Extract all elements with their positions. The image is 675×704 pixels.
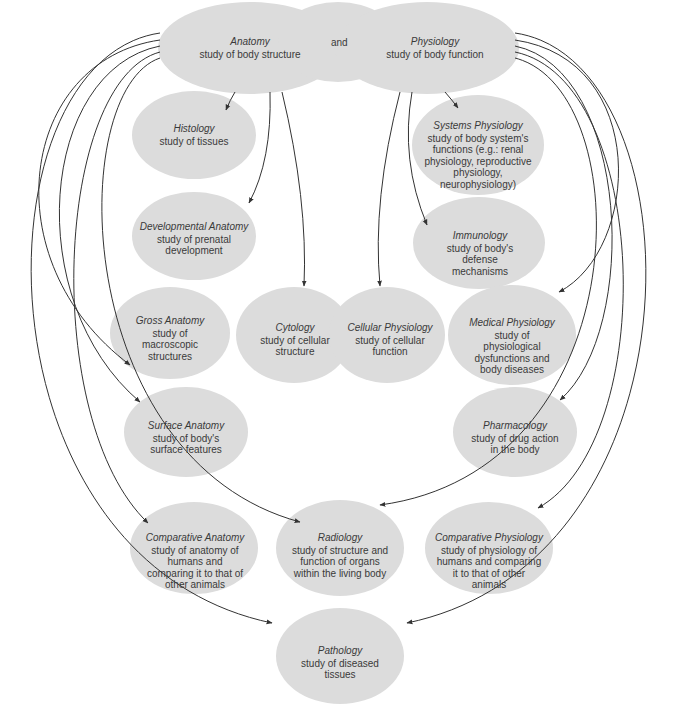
medical-physiology-title: Medical Physiology (460, 317, 564, 329)
pathology-desc: study of diseased tissues (298, 658, 382, 681)
immunology-desc: study of body's defense mechanisms (435, 243, 525, 278)
gross-anatomy-title: Gross Anatomy (120, 315, 220, 327)
surface-anatomy-node[interactable]: Surface Anatomy study of body's surface … (136, 420, 236, 456)
cellular-physiology-desc: study of cellular function (342, 335, 438, 358)
pathology-node[interactable]: Pathology study of diseased tissues (290, 645, 390, 681)
cellular-physiology-node[interactable]: Cellular Physiology study of cellular fu… (342, 322, 438, 358)
pathology-title: Pathology (290, 645, 390, 657)
gross-anatomy-node[interactable]: Gross Anatomy study of macroscopic struc… (120, 315, 220, 362)
physiology-desc: study of body function (365, 49, 505, 61)
developmental-anatomy-desc: study of prenatal development (154, 234, 234, 257)
comparative-physiology-node[interactable]: Comparative Physiology study of physiolo… (432, 532, 546, 591)
comparative-anatomy-desc: study of anatomy of humans and comparing… (145, 545, 245, 591)
gross-anatomy-desc: study of macroscopic structures (139, 328, 201, 363)
surface-anatomy-title: Surface Anatomy (136, 420, 236, 432)
cytology-desc: study of cellular structure (250, 335, 340, 358)
pharmacology-title: Pharmacology (465, 420, 565, 432)
cellular-physiology-title: Cellular Physiology (342, 322, 438, 334)
radiology-node[interactable]: Radiology study of structure and functio… (285, 532, 395, 579)
and-label: and (331, 37, 348, 48)
cytology-title: Cytology (250, 322, 340, 334)
systems-physiology-desc: study of body system's functions (e.g.: … (420, 133, 536, 191)
developmental-anatomy-title: Developmental Anatomy (134, 221, 254, 233)
surface-anatomy-desc: study of body's surface features (144, 433, 228, 456)
systems-physiology-node[interactable]: Systems Physiology study of body system'… (420, 120, 536, 190)
radiology-desc: study of structure and function of organ… (290, 545, 390, 580)
comparative-physiology-desc: study of physiology of humans and compar… (435, 545, 543, 591)
medical-physiology-desc: study of physiological dysfunctions and … (472, 330, 552, 376)
radiology-title: Radiology (285, 532, 395, 544)
comparative-anatomy-node[interactable]: Comparative Anatomy study of anatomy of … (140, 532, 250, 591)
pharmacology-desc: study of drug action in the body (470, 433, 560, 456)
developmental-anatomy-node[interactable]: Developmental Anatomy study of prenatal … (134, 221, 254, 257)
anatomy-desc: study of body structure (175, 49, 325, 61)
comparative-anatomy-title: Comparative Anatomy (140, 532, 250, 544)
anatomy-title: Anatomy (175, 36, 325, 48)
anatomy-node[interactable]: Anatomy study of body structure (175, 36, 325, 60)
cytology-node[interactable]: Cytology study of cellular structure (250, 322, 340, 358)
immunology-node[interactable]: Immunology study of body's defense mecha… (430, 230, 530, 277)
histology-desc: study of tissues (144, 136, 244, 148)
histology-title: Histology (144, 123, 244, 135)
pharmacology-node[interactable]: Pharmacology study of drug action in the… (465, 420, 565, 456)
medical-physiology-node[interactable]: Medical Physiology study of physiologica… (460, 317, 564, 376)
immunology-title: Immunology (430, 230, 530, 242)
systems-physiology-title: Systems Physiology (420, 120, 536, 132)
physiology-node[interactable]: Physiology study of body function (365, 36, 505, 60)
physiology-title: Physiology (365, 36, 505, 48)
histology-node[interactable]: Histology study of tissues (144, 123, 244, 147)
comparative-physiology-title: Comparative Physiology (432, 532, 546, 544)
